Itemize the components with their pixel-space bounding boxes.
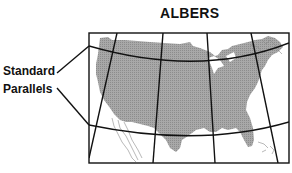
mexico-coast: [112, 118, 142, 162]
caribbean-islands: [258, 142, 274, 154]
albers-map: [0, 0, 292, 173]
leader-lines: [57, 46, 89, 125]
